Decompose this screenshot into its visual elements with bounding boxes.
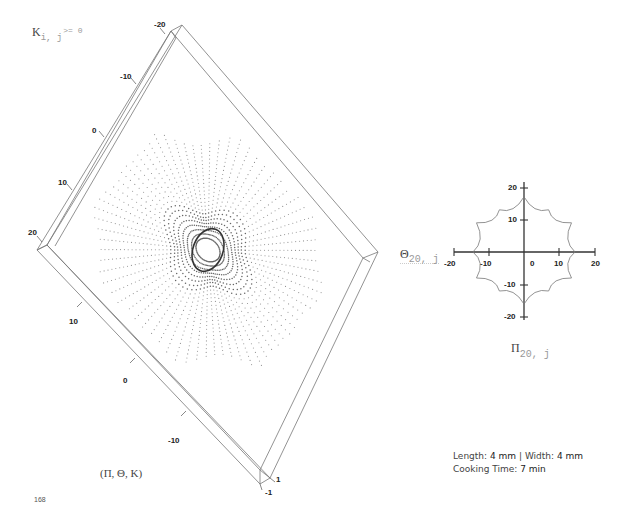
tick-label: -20 — [154, 20, 166, 29]
cooking-time-line: Cooking Time: 7 min — [453, 463, 583, 476]
width-value: 4 mm — [557, 451, 583, 461]
length-label: Length: — [453, 451, 487, 461]
tick-label: 10 — [69, 317, 78, 326]
x-tick-label: -20 — [444, 259, 456, 268]
condition-subscript: i, j — [41, 33, 63, 43]
dimensions-line: Length: 4 mm | Width: 4 mm — [453, 450, 583, 463]
x-axis-label: Π20, j — [511, 338, 550, 356]
x-tick-label: 20 — [591, 259, 600, 268]
separator: | — [519, 451, 522, 461]
y-tick-label: 10 — [508, 215, 517, 224]
x-tick-label: -10 — [480, 259, 492, 268]
time-label: Cooking Time: — [453, 464, 517, 474]
axes-label: (Π, Θ, K) — [100, 467, 142, 479]
x-label-symbol: Π — [511, 341, 520, 355]
y-tick-label: -20 — [504, 312, 516, 321]
x-label-subscript: 20, j — [520, 349, 550, 360]
left-3d-plot: -20 -10 0 10 20 10 0 -10 1 -1 Ki, j>= 0 … — [0, 0, 400, 514]
tick-label: -10 — [120, 72, 132, 81]
condition-label: Ki, j>= 0 — [32, 22, 82, 40]
y-axis-label: Θ20, j — [400, 244, 439, 264]
tick-label: 0 — [123, 376, 127, 385]
tick-label: 10 — [58, 178, 67, 187]
tick-label: -1 — [265, 488, 272, 497]
tick-label: -10 — [168, 436, 180, 445]
length-value: 4 mm — [490, 451, 516, 461]
tick-label: 1 — [276, 475, 280, 484]
time-value: 7 min — [520, 464, 546, 474]
bounding-box-graphic — [0, 0, 400, 514]
x-tick-label: 10 — [554, 259, 563, 268]
y-tick-label: 20 — [508, 183, 517, 192]
recipe-caption: Length: 4 mm | Width: 4 mm Cooking Time:… — [453, 450, 583, 476]
width-label: Width: — [525, 451, 554, 461]
condition-expression: >= 0 — [63, 26, 82, 35]
y-tick-label: -10 — [504, 280, 516, 289]
tick-label: 20 — [28, 228, 37, 237]
page-number: 168 — [34, 496, 46, 503]
y-label-symbol: Θ — [400, 247, 409, 261]
y-label-subscript: 20, j — [409, 254, 439, 265]
x-tick-label: 0 — [530, 259, 534, 268]
condition-symbol: K — [32, 25, 41, 39]
tick-label: 0 — [92, 126, 96, 135]
